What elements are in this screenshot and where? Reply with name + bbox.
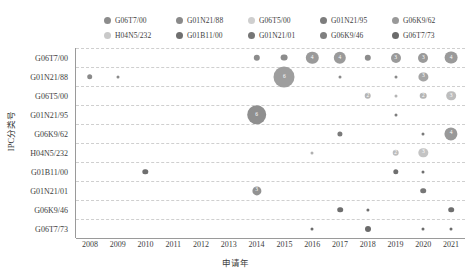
bubble-point[interactable]: 1 [394,75,397,78]
legend-item-g01n21-95[interactable]: G01N21/95 [320,16,392,25]
bubble-point[interactable]: 2 [337,207,343,213]
legend-label: H04N5/232 [115,31,151,40]
bubble-point[interactable]: 1 [422,132,425,135]
bubble-value-label: 3 [255,188,258,194]
legend-item-g01n21-88[interactable]: G01N21/88 [176,16,248,25]
x-tick-label: 2014 [249,240,265,249]
bubble-point[interactable]: 2 [420,92,427,99]
bubble-point[interactable]: 2 [365,226,371,232]
gridline-row [76,86,465,87]
legend-swatch-icon [248,17,255,24]
y-tick-label: G01N21/95 [30,110,68,119]
y-axis-line [75,48,76,238]
legend-item-g01b11-00[interactable]: G01B11/00 [176,31,248,40]
x-tick-label: 2010 [137,240,153,249]
bubble-point[interactable]: 2 [448,207,454,213]
x-tick-label: 2021 [443,240,459,249]
y-tick-label: G06T5/00 [35,91,68,100]
x-tick-label: 2009 [110,240,126,249]
legend-item-g01n21-01[interactable]: G01N21/01 [248,31,320,40]
bubble-point[interactable]: 1 [311,227,314,230]
bubble-point[interactable]: 3 [446,91,456,101]
bubble-value-label: 4 [450,131,453,137]
bubble-value-label: 4 [450,55,453,61]
x-tick-label: 2019 [388,240,404,249]
bubble-point[interactable]: 1 [422,227,425,230]
bubble-point[interactable]: 1 [116,75,119,78]
bubble-point[interactable]: 2 [421,188,427,194]
bubble-value-label: 3 [422,74,425,80]
y-tick-label: G01B11/00 [31,167,68,176]
x-tick-label: 2020 [415,240,431,249]
gridline-row [76,162,465,163]
gridline-row [76,124,465,125]
bubble-point[interactable]: 2 [87,74,93,80]
y-tick-label: G01N21/01 [30,186,68,195]
legend-item-g06t5-00[interactable]: G06T5/00 [248,16,320,25]
legend-item-g06k9-46[interactable]: G06K9/46 [320,31,392,40]
y-tick-label: G06T7/00 [35,53,68,62]
gridline-row [76,48,465,49]
legend-swatch-icon [392,17,399,24]
gridline-row [76,219,465,220]
bubble-point[interactable]: 2 [392,149,399,156]
y-tick-label: H04N5/232 [30,148,68,157]
x-axis-line [76,238,465,239]
bubble-point[interactable]: 3 [391,53,401,63]
gridline-row [76,181,465,182]
bubble-point[interactable]: 2 [364,92,371,99]
bubble-value-label: 2 [422,93,425,99]
plot-area: 22442334216113212361214123221322121211 [76,48,465,238]
x-tick-label: 2011 [165,240,181,249]
chart-legend: G06T7/00H04N5/232G01N21/88G01B11/00G06T5… [104,13,464,43]
gridline-row [76,105,465,106]
bubble-point[interactable]: 1 [311,151,314,154]
bubble-value-label: 2 [366,93,369,99]
legend-item-g06t7-73[interactable]: G06T7/73 [392,31,464,40]
legend-swatch-icon [104,32,111,39]
bubble-point[interactable]: 3 [418,53,428,63]
bubble-point[interactable]: 6 [247,105,267,125]
bubble-point[interactable]: 1 [338,75,341,78]
legend-swatch-icon [248,32,255,39]
legend-item-g06t7-00[interactable]: G06T7/00 [104,16,176,25]
bubble-value-label: 3 [422,55,425,61]
legend-label: G01N21/01 [259,31,295,40]
legend-swatch-icon [392,32,399,39]
gridline-row [76,200,465,201]
bubble-value-label: 6 [255,112,258,118]
bubble-point[interactable]: 1 [422,170,425,173]
bubble-point[interactable]: 1 [394,113,397,116]
bubble-point[interactable]: 6 [274,66,295,87]
legend-label: G06K9/46 [331,31,363,40]
bubble-value-label: 4 [311,55,314,61]
legend-label: G01B11/00 [187,31,223,40]
x-tick-label: 2016 [304,240,320,249]
y-tick-label: G01N21/88 [30,72,68,81]
bubble-point[interactable]: 1 [450,227,453,230]
bubble-value-label: 3 [422,150,425,156]
legend-label: G06T5/00 [259,16,291,25]
y-tick-label: G06K9/46 [34,205,68,214]
y-tick-label: G06K9/62 [34,129,68,138]
bubble-chart: G06T7/00H04N5/232G01N21/88G01B11/00G06T5… [0,0,471,276]
y-tick-label: G06T7/73 [35,224,68,233]
bubble-value-label: 4 [339,55,342,61]
legend-swatch-icon [176,32,183,39]
y-axis-title: IPC分类号 [4,101,16,161]
legend-item-h04n5-232[interactable]: H04N5/232 [104,31,176,40]
bubble-point[interactable]: 1 [394,94,397,97]
legend-swatch-icon [176,17,183,24]
bubble-value-label: 3 [450,93,453,99]
bubble-point[interactable]: 2 [281,54,288,61]
x-tick-label: 2008 [82,240,98,249]
legend-swatch-icon [320,17,327,24]
legend-label: G01N21/88 [187,16,223,25]
legend-item-g06k9-62[interactable]: G06K9/62 [392,16,464,25]
legend-swatch-icon [104,17,111,24]
x-axis-title: 申请年 [0,256,471,268]
x-tick-label: 2017 [332,240,348,249]
bubble-value-label: 6 [283,74,286,80]
bubble-point[interactable]: 4 [445,51,458,64]
legend-label: G06K9/62 [403,16,435,25]
